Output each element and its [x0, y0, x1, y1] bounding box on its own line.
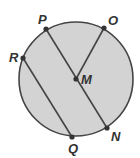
point-q	[69, 134, 74, 139]
label-n: N	[111, 129, 121, 144]
label-o: O	[108, 13, 118, 28]
point-n	[104, 125, 109, 130]
point-m	[73, 76, 78, 81]
point-p	[43, 26, 48, 31]
circle-diagram: P O R M N Q	[0, 0, 140, 158]
point-r	[20, 55, 25, 60]
label-p: P	[38, 12, 47, 27]
label-m: M	[81, 72, 93, 87]
label-r: R	[9, 50, 19, 65]
point-o	[101, 25, 106, 30]
label-q: Q	[68, 141, 78, 156]
